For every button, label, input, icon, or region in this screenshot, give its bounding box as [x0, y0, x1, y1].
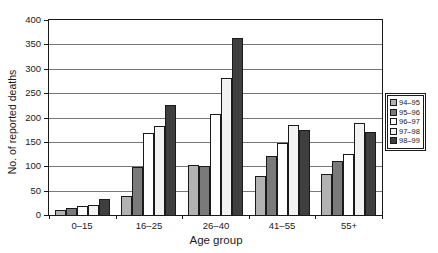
legend: 94–9595–9696–9797–9898–99	[385, 93, 426, 151]
y-tick-mark	[44, 93, 48, 94]
gridline-300	[49, 69, 382, 70]
y-tick-mark	[44, 215, 48, 216]
bar-94-95-55+	[321, 174, 332, 215]
x-tick-mark	[182, 216, 183, 219]
legend-item-95-96: 95–96	[390, 108, 420, 118]
x-category-label: 16–25	[136, 220, 162, 231]
y-tick-label-300: 300	[15, 64, 41, 74]
legend-label: 98–99	[399, 136, 420, 146]
bar-95-96-41-55	[266, 156, 277, 215]
bar-96-97-26-40	[210, 114, 221, 215]
bar-96-97-55+	[343, 154, 354, 215]
bar-95-96-26-40	[199, 166, 210, 215]
bar-95-96-0-15	[66, 208, 77, 215]
bar-97-98-55+	[354, 123, 365, 215]
x-tick-mark	[49, 216, 50, 219]
legend-label: 94–95	[399, 98, 420, 108]
y-tick-mark	[44, 20, 48, 21]
y-tick-mark	[44, 118, 48, 119]
legend-label: 96–97	[399, 117, 420, 127]
bar-98-99-41-55	[299, 130, 310, 215]
bar-95-96-16-25	[132, 167, 143, 215]
bar-94-95-0-15	[55, 210, 66, 215]
legend-swatch	[390, 109, 397, 116]
bar-96-97-0-15	[77, 206, 88, 215]
y-tick-mark	[44, 166, 48, 167]
bar-94-95-41-55	[255, 176, 266, 215]
legend-label: 97–98	[399, 127, 420, 137]
x-category-label: 26–40	[203, 220, 229, 231]
y-tick-label-200: 200	[15, 113, 41, 123]
bar-97-98-41-55	[288, 125, 299, 215]
x-axis-title: Age group	[189, 234, 242, 247]
legend-label: 95–96	[399, 108, 420, 118]
legend-item-96-97: 96–97	[390, 117, 420, 127]
bar-98-99-55+	[365, 132, 376, 215]
x-tick-mark	[315, 216, 316, 219]
bar-97-98-0-15	[88, 205, 99, 215]
y-tick-mark	[44, 44, 48, 45]
y-tick-label-250: 250	[15, 88, 41, 98]
y-tick-mark	[44, 191, 48, 192]
bar-98-99-0-15	[99, 199, 110, 215]
y-tick-label-150: 150	[15, 137, 41, 147]
y-tick-mark	[44, 69, 48, 70]
x-tick-mark	[382, 216, 383, 219]
legend-swatch	[390, 137, 397, 144]
y-tick-label-100: 100	[15, 161, 41, 171]
gridline-350	[49, 44, 382, 45]
bar-95-96-55+	[332, 161, 343, 215]
y-tick-label-400: 400	[15, 15, 41, 25]
legend-item-98-99: 98–99	[390, 136, 420, 146]
bar-98-99-26-40	[232, 38, 243, 215]
gridline-250	[49, 93, 382, 94]
legend-item-97-98: 97–98	[390, 127, 420, 137]
bar-97-98-26-40	[221, 78, 232, 215]
bar-98-99-16-25	[165, 105, 176, 215]
y-tick-label-50: 50	[15, 186, 41, 196]
legend-swatch	[390, 118, 397, 125]
x-category-label: 0–15	[71, 220, 92, 231]
y-tick-label-350: 350	[15, 39, 41, 49]
y-tick-label-0: 0	[15, 210, 41, 220]
legend-swatch	[390, 99, 397, 106]
x-tick-mark	[249, 216, 250, 219]
legend-box: 94–9595–9696–9797–9898–99	[387, 95, 424, 149]
bar-chart: No. of reported deaths 05010015020025030…	[0, 0, 438, 253]
plot-area	[48, 19, 383, 216]
bar-96-97-41-55	[277, 143, 288, 215]
x-category-label: 41–55	[269, 220, 295, 231]
x-category-label: 55+	[341, 220, 357, 231]
bar-94-95-26-40	[188, 165, 199, 215]
x-tick-mark	[116, 216, 117, 219]
bar-97-98-16-25	[154, 126, 165, 215]
y-tick-mark	[44, 142, 48, 143]
bar-94-95-16-25	[121, 196, 132, 215]
legend-swatch	[390, 128, 397, 135]
legend-item-94-95: 94–95	[390, 98, 420, 108]
bar-96-97-16-25	[143, 133, 154, 215]
